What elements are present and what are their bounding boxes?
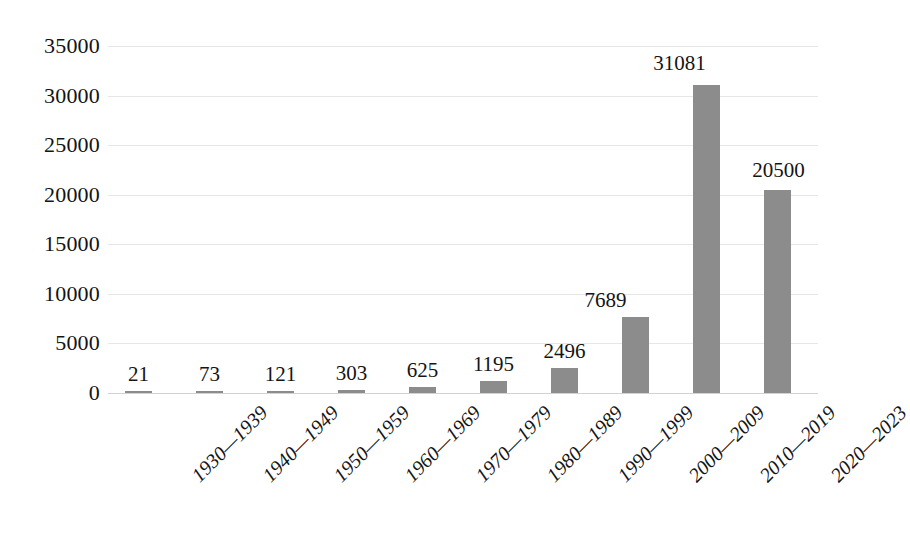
x-tick-label: 1980—1989 <box>542 402 625 485</box>
bar-value-label: 31081 <box>653 53 706 74</box>
bar-value-label: 1195 <box>473 354 514 375</box>
bar[interactable] <box>622 317 649 393</box>
bar-value-label: 625 <box>407 360 439 381</box>
x-tick-label: 2020—2023 <box>826 402 909 485</box>
x-tick-label: 1950—1959 <box>329 402 412 485</box>
y-axis: 05000100001500020000250003000035000 <box>0 46 100 393</box>
y-tick-label: 15000 <box>8 233 100 255</box>
bar-value-label: 2496 <box>544 341 586 362</box>
plot-area: 21731213036251195249676893108120500 <box>108 46 818 393</box>
y-tick-label: 35000 <box>8 35 100 57</box>
bar[interactable] <box>196 391 223 393</box>
gridline <box>108 46 818 47</box>
bar-value-label: 7689 <box>585 290 627 311</box>
x-tick-label: 1960—1969 <box>400 402 483 485</box>
bar[interactable] <box>125 391 152 393</box>
x-axis: 1930—19391940—19491950—19591960—19691970… <box>108 396 818 526</box>
bar[interactable] <box>693 85 720 393</box>
bar[interactable] <box>267 391 294 393</box>
gridline <box>108 393 818 394</box>
bar[interactable] <box>551 368 578 393</box>
bar-value-label: 73 <box>199 364 220 385</box>
bar-value-label: 21 <box>128 364 149 385</box>
bar[interactable] <box>480 381 507 393</box>
y-tick-label: 20000 <box>8 184 100 206</box>
y-tick-label: 25000 <box>8 134 100 156</box>
y-tick-label: 10000 <box>8 283 100 305</box>
bar-value-label: 20500 <box>752 160 805 181</box>
y-tick-label: 5000 <box>8 332 100 354</box>
bar[interactable] <box>409 387 436 393</box>
bar-value-label: 303 <box>336 363 368 384</box>
bar-value-label: 121 <box>265 364 297 385</box>
x-tick-label: 1990—1999 <box>613 402 696 485</box>
x-tick-label: 1940—1949 <box>258 402 341 485</box>
bar[interactable] <box>764 190 791 393</box>
bar[interactable] <box>338 390 365 393</box>
y-tick-label: 0 <box>8 382 100 404</box>
x-tick-label: 1970—1979 <box>471 402 554 485</box>
x-tick-label: 2000—2009 <box>684 402 767 485</box>
x-tick-label: 1930—1939 <box>187 402 270 485</box>
x-tick-label: 2010—2019 <box>755 402 838 485</box>
y-tick-label: 30000 <box>8 85 100 107</box>
